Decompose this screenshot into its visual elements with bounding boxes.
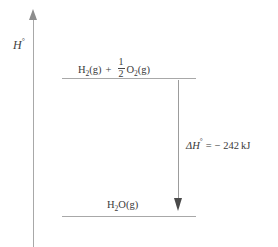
fraction-numerator: 1 — [118, 57, 125, 67]
value-sign: − — [215, 140, 221, 151]
enthalpy-symbol: H — [192, 140, 200, 151]
reaction-arrow-shaft — [178, 80, 179, 200]
enthalpy-value: 242 — [223, 140, 239, 151]
reactant-species-2: O — [127, 64, 135, 75]
product-species-element: H — [107, 199, 115, 210]
equals-sign: = — [203, 140, 215, 151]
axis-label-symbol: H — [13, 38, 22, 52]
enthalpy-axis-label: H° — [13, 37, 25, 53]
enthalpy-change-label: ΔH°=− 242kJ — [186, 137, 250, 151]
reactant-operator: + — [102, 64, 116, 75]
energy-level-label-reactants: H2(g)+12O2(g) — [78, 57, 150, 79]
stoichiometric-fraction: 12 — [118, 57, 125, 79]
reactant-species-2-state: (g) — [138, 64, 150, 75]
enthalpy-units: kJ — [239, 140, 250, 151]
enthalpy-diagram: H° H2(g)+12O2(g) ΔH°=− 242kJ H2O(g) — [0, 0, 278, 247]
axis-label-superscript: ° — [22, 37, 25, 46]
enthalpy-axis-line — [33, 18, 34, 247]
energy-level-label-products: H2O(g) — [107, 200, 138, 213]
reactant-species-1-state: (g) — [89, 64, 101, 75]
fraction-denominator: 2 — [118, 69, 125, 79]
product-species-state: (g) — [126, 199, 138, 210]
reaction-arrow-head-icon — [174, 198, 182, 211]
energy-level-line-products — [62, 216, 196, 217]
reactant-species-1: H — [78, 64, 86, 75]
product-species-rest: O — [118, 199, 126, 210]
axis-arrowhead-icon — [29, 9, 37, 20]
